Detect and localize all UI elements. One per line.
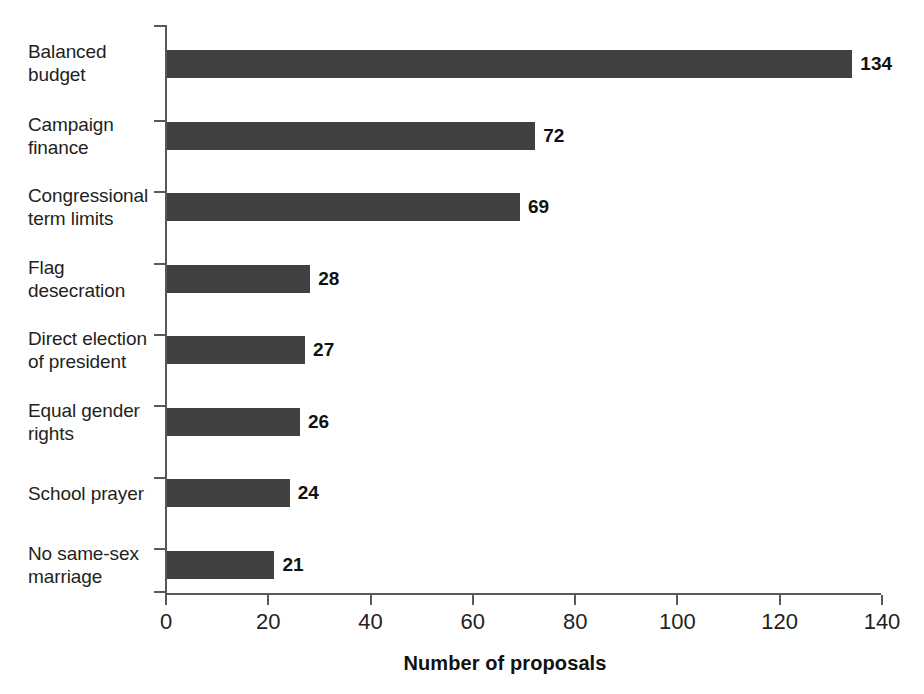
x-axis-tick-label-5: 100 xyxy=(659,609,696,635)
x-axis-title: Number of proposals xyxy=(0,652,924,675)
x-axis-tick-label-1: 20 xyxy=(256,609,280,635)
category-label-4: Direct election of president xyxy=(28,327,160,373)
category-label-3: Flag desecration xyxy=(28,256,160,302)
x-axis-tick-4 xyxy=(574,595,576,605)
y-axis-tick-2 xyxy=(154,191,165,193)
x-axis-tick-label-4: 80 xyxy=(563,609,587,635)
bar-7[interactable] xyxy=(167,551,274,579)
x-axis-tick-3 xyxy=(472,595,474,605)
category-label-5: Equal gender rights xyxy=(28,399,160,445)
x-axis-tick-label-2: 40 xyxy=(358,609,382,635)
bar-2[interactable] xyxy=(167,193,520,221)
bar-value-5: 26 xyxy=(308,411,329,433)
y-axis-tick-0 xyxy=(154,25,165,27)
category-label-7: No same-sex marriage xyxy=(28,542,160,588)
bar-value-0: 134 xyxy=(860,53,892,75)
bar-value-3: 28 xyxy=(318,268,339,290)
category-label-2: Congressional term limits xyxy=(28,184,160,230)
x-axis-tick-5 xyxy=(676,595,678,605)
y-axis-tick-5 xyxy=(154,405,165,407)
bar-0[interactable] xyxy=(167,50,852,78)
bar-value-6: 24 xyxy=(298,482,319,504)
y-axis-tick-6 xyxy=(154,477,165,479)
x-axis-title-text: Number of proposals xyxy=(317,652,606,674)
x-axis-tick-1 xyxy=(267,595,269,605)
bar-1[interactable] xyxy=(167,122,535,150)
x-axis-tick-label-6: 120 xyxy=(761,609,798,635)
bar-value-2: 69 xyxy=(528,196,549,218)
x-axis-tick-7 xyxy=(881,595,883,605)
y-axis-tick-1 xyxy=(154,120,165,122)
x-axis-line xyxy=(165,593,881,595)
bar-chart: Balanced budget Campaign finance Congres… xyxy=(0,0,924,694)
y-axis-line xyxy=(165,25,167,593)
bar-4[interactable] xyxy=(167,336,305,364)
bar-3[interactable] xyxy=(167,265,310,293)
category-label-0: Balanced budget xyxy=(28,40,160,86)
x-axis-tick-label-7: 140 xyxy=(864,609,901,635)
bar-6[interactable] xyxy=(167,479,290,507)
y-axis-tick-7 xyxy=(154,548,165,550)
y-axis-tick-8 xyxy=(154,591,165,593)
x-axis-tick-label-3: 60 xyxy=(461,609,485,635)
x-axis-tick-label-0: 0 xyxy=(160,609,172,635)
plot-area: 134 72 69 28 27 26 24 21 0 20 40 60 80 1… xyxy=(165,25,881,593)
x-axis-tick-2 xyxy=(370,595,372,605)
bar-value-7: 21 xyxy=(282,554,303,576)
x-axis-tick-6 xyxy=(779,595,781,605)
x-axis-tick-0 xyxy=(165,595,167,605)
category-label-6: School prayer xyxy=(28,482,160,505)
y-axis-tick-4 xyxy=(154,334,165,336)
bar-value-1: 72 xyxy=(543,125,564,147)
category-label-1: Campaign finance xyxy=(28,113,160,159)
y-axis-tick-3 xyxy=(154,263,165,265)
bar-5[interactable] xyxy=(167,408,300,436)
bar-value-4: 27 xyxy=(313,339,334,361)
